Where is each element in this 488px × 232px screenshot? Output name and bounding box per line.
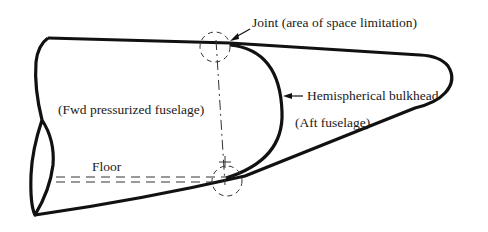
fuselage-outline [35,38,452,215]
fwd-fuselage-label: (Fwd pressurized fuselage) [58,103,204,117]
hemispherical-bulkhead [226,45,282,178]
floor-label: Floor [92,160,121,174]
bulkhead-arrowhead [283,93,292,99]
forward-section-edge [31,38,53,215]
aft-fuselage-label: (Aft fuselage) [295,116,370,130]
bulkhead-label: Hemispherical bulkhead [307,89,439,103]
joint-arrowhead [230,33,239,41]
joint-circle-top [200,32,230,62]
floor-line [56,177,228,182]
joint-label: Joint (area of space limitation) [252,16,417,30]
joint-centerline [216,40,225,185]
